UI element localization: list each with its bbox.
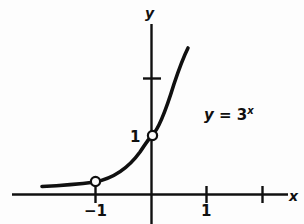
exponential-graph-figure: y x 1 −1 1 y = 3x	[0, 0, 304, 224]
y-tick-label-one: 1	[130, 130, 140, 145]
equation-operator: = 3	[214, 106, 247, 124]
equation-lhs: y	[204, 106, 214, 124]
equation-exponent: x	[247, 105, 253, 116]
x-axis-label: x	[289, 189, 298, 203]
graph-canvas	[0, 0, 304, 224]
point-marker-zero-one	[148, 131, 157, 140]
point-marker-neg-one	[91, 177, 100, 186]
equation-annotation: y = 3x	[204, 108, 254, 123]
exponential-curve	[42, 48, 188, 187]
y-axis-label: y	[145, 6, 154, 20]
x-tick-label-one: 1	[201, 204, 211, 219]
x-tick-label-negative-one: −1	[84, 204, 107, 219]
